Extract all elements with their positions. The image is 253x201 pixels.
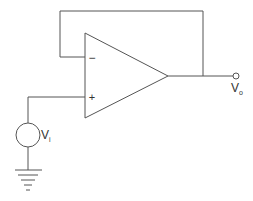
output-terminal: [233, 73, 239, 79]
opamp-triangle: [85, 33, 168, 118]
feedback-wire: [60, 11, 203, 76]
inverting-input-symbol: −: [88, 51, 95, 65]
circuit-diagram: − + Vi Vo: [0, 0, 253, 201]
output-voltage-label: Vo: [231, 81, 243, 96]
noninverting-input-symbol: +: [89, 91, 95, 103]
input-wire: [28, 97, 85, 123]
ground-icon: [15, 170, 42, 190]
voltage-source: [16, 123, 40, 147]
input-voltage-label: Vi: [41, 128, 51, 143]
